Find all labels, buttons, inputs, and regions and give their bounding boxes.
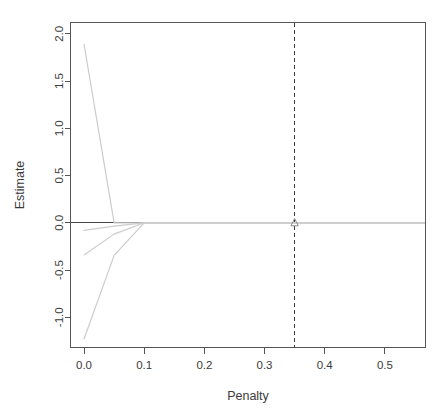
- y-axis-tick-labels: -1.0-0.50.00.51.01.52.0: [53, 26, 65, 327]
- coefficient-path-line: [84, 44, 425, 223]
- y-tick-label: -0.5: [53, 260, 65, 280]
- y-tick-label: -1.0: [53, 307, 65, 327]
- y-tick-label: 1.0: [53, 120, 65, 136]
- x-axis-tick-labels: 0.00.10.20.30.40.5: [76, 359, 393, 371]
- y-tick-label: 0.5: [53, 168, 65, 184]
- coefficient-path-line: [84, 223, 425, 339]
- reference-lines: [71, 23, 426, 348]
- coefficient-path-line: [84, 223, 425, 255]
- x-tick-label: 0.4: [317, 359, 334, 371]
- y-axis-ticks: [65, 34, 71, 317]
- x-tick-label: 0.2: [196, 359, 212, 371]
- x-tick-label: 0.5: [377, 359, 393, 371]
- y-tick-label: 0.0: [53, 215, 65, 231]
- y-tick-label: 2.0: [53, 26, 65, 42]
- x-tick-label: 0.3: [257, 359, 273, 371]
- coefficient-paths: [84, 44, 425, 339]
- x-tick-label: 0.0: [76, 359, 92, 371]
- x-tick-label: 0.1: [136, 359, 152, 371]
- y-tick-label: 1.5: [53, 73, 65, 89]
- x-axis-title: Penalty: [227, 389, 269, 403]
- penalty-estimate-plot: 0.00.10.20.30.40.5 -1.0-0.50.00.51.01.52…: [0, 0, 441, 410]
- plot-frame: [71, 23, 426, 348]
- chart-container: 0.00.10.20.30.40.5 -1.0-0.50.00.51.01.52…: [0, 0, 441, 410]
- y-axis-title: Estimate: [13, 161, 27, 210]
- x-axis-ticks: [84, 348, 385, 354]
